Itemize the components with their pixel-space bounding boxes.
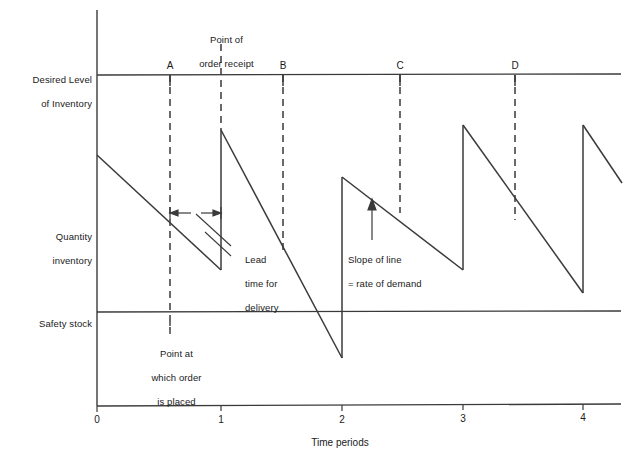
- lead-time-arrow: [170, 207, 221, 219]
- desired-level-label: Desired Level of Inventory: [0, 62, 92, 122]
- order-placed-label-line2: which order: [151, 372, 201, 383]
- cycle-marker-d-text: D: [511, 60, 518, 71]
- safety-stock-label: Safety stock: [0, 306, 92, 342]
- lead-time-label: Lead time for delivery: [234, 242, 314, 326]
- x-tick-label-2-text: 2: [339, 414, 345, 425]
- x-tick-label-1-text: 1: [218, 414, 224, 425]
- lead-time-leader-lines: [196, 214, 231, 256]
- x-tick-label-0: 0: [87, 414, 107, 425]
- slope-annotation-arrow: [368, 199, 376, 240]
- slope-annotation-label: Slope of line = rate of demand: [337, 242, 477, 302]
- x-axis-title-text: Time periods: [311, 437, 368, 448]
- x-tick-label-4-text: 4: [580, 412, 586, 423]
- cycle-marker-a: A: [160, 60, 180, 71]
- desired-level-label-line1: Desired Level: [33, 74, 92, 85]
- x-axis-title: Time periods: [280, 437, 400, 448]
- lead-time-label-line2: time for: [245, 278, 277, 289]
- slope-arrow-head: [368, 199, 376, 210]
- lead-time-label-line1: Lead: [245, 254, 267, 265]
- lead-time-leader-1: [196, 214, 231, 246]
- desired-level-label-line2: of Inventory: [41, 98, 92, 109]
- slope-annotation-line2: = rate of demand: [348, 278, 422, 289]
- quantity-of-inventory-label: Quantity inventory: [0, 219, 92, 279]
- cycle-marker-d: D: [505, 60, 525, 71]
- inventory-decline-4: [463, 125, 583, 293]
- chart-canvas: [0, 0, 644, 460]
- inventory-cycle-figure: Desired Level of Inventory Quantity inve…: [0, 0, 644, 460]
- cycle-marker-c: C: [390, 60, 410, 71]
- order-placed-label: Point at which order is placed: [115, 336, 227, 420]
- quantity-label-line1: Quantity: [56, 231, 92, 242]
- x-tick-label-3: 3: [453, 413, 473, 424]
- lead-time-leader-2: [205, 232, 231, 256]
- x-tick-label-0-text: 0: [94, 414, 100, 425]
- x-tick-label-1: 1: [211, 414, 231, 425]
- order-receipt-label-line1: Point of: [210, 34, 243, 45]
- lead-time-arrow-right-head: [213, 210, 221, 216]
- safety-stock-label-text: Safety stock: [39, 318, 92, 329]
- x-tick-label-3-text: 3: [460, 413, 466, 424]
- order-receipt-label: Point of order receipt: [166, 22, 276, 82]
- inventory-decline-5: [583, 125, 622, 183]
- cycle-marker-b-text: B: [280, 60, 287, 71]
- quantity-label-line2: inventory: [53, 255, 92, 266]
- cycle-marker-b: B: [273, 60, 293, 71]
- cycle-marker-a-text: A: [167, 60, 174, 71]
- order-receipt-label-line2: order receipt: [199, 58, 254, 69]
- cycle-marker-c-text: C: [396, 60, 403, 71]
- safety-stock-line: [97, 311, 621, 312]
- slope-annotation-line1: Slope of line: [348, 254, 402, 265]
- x-tick-label-2: 2: [332, 414, 352, 425]
- order-placed-label-line3: is placed: [157, 396, 195, 407]
- x-tick-label-4: 4: [573, 412, 593, 423]
- lead-time-label-line3: delivery: [245, 302, 279, 313]
- lead-time-arrow-left-head: [170, 210, 178, 216]
- order-placed-label-line1: Point at: [160, 348, 193, 359]
